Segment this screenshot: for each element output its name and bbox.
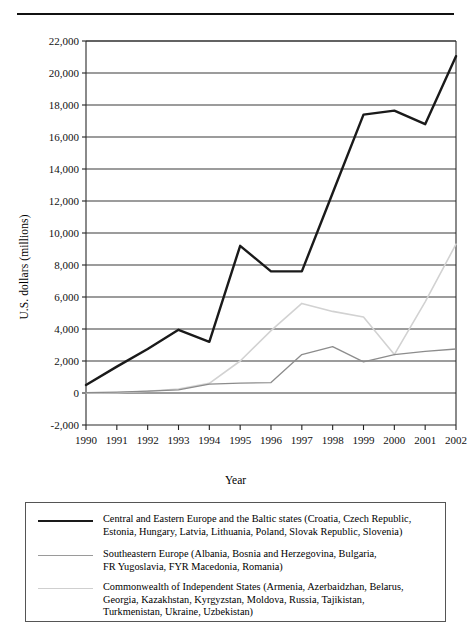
legend-label-cis: Commonwealth of Independent States (Arme… — [103, 581, 437, 619]
y-tick-label: 18,000 — [49, 99, 80, 111]
y-tick-label: 4,000 — [54, 323, 79, 335]
figure-page: -2,00002,0004,0006,0008,00010,00012,0001… — [0, 0, 471, 642]
x-tick-label: 2002 — [445, 434, 467, 446]
y-tick-label: 20,000 — [49, 67, 80, 79]
y-tick-label: 22,000 — [49, 35, 80, 47]
x-tick-label: 2000 — [383, 434, 406, 446]
y-tick-label: 16,000 — [49, 131, 80, 143]
y-tick-label: 8,000 — [54, 259, 79, 271]
top-horizontal-rule — [17, 13, 454, 15]
chart-plot-svg: -2,00002,0004,0006,0008,00010,00012,0001… — [0, 22, 471, 472]
x-tick-label: 1993 — [168, 434, 191, 446]
y-tick-label: 2,000 — [54, 355, 79, 367]
y-tick-label: 0 — [74, 387, 80, 399]
legend-entry-see: Southeastern Europe (Albania, Bosnia and… — [26, 548, 445, 573]
y-axis-title-wrapper: U.S. dollars (millions) — [14, 197, 34, 337]
y-tick-label: -2,000 — [51, 419, 80, 431]
x-tick-label: 1999 — [353, 434, 376, 446]
x-tick-label: 1997 — [291, 434, 314, 446]
y-axis-title: U.S. dollars (millions) — [18, 214, 30, 319]
x-axis-title: Year — [0, 474, 471, 486]
x-tick-label: 2001 — [414, 434, 436, 446]
x-tick-label: 1991 — [106, 434, 128, 446]
x-tick-label: 1994 — [198, 434, 221, 446]
line-chart: -2,00002,0004,0006,0008,00010,00012,0001… — [0, 22, 471, 482]
x-tick-label: 1998 — [322, 434, 345, 446]
y-tick-label: 10,000 — [49, 227, 80, 239]
y-tick-label: 6,000 — [54, 291, 79, 303]
y-tick-label: 12,000 — [49, 195, 80, 207]
y-tick-label: 14,000 — [49, 163, 80, 175]
x-tick-label: 1995 — [229, 434, 252, 446]
legend: Central and Eastern Europe and the Balti… — [25, 502, 446, 622]
x-tick-label: 1990 — [75, 434, 98, 446]
legend-entry-cee: Central and Eastern Europe and the Balti… — [26, 513, 445, 538]
x-tick-label: 1992 — [137, 434, 159, 446]
legend-label-see: Southeastern Europe (Albania, Bosnia and… — [103, 548, 437, 573]
legend-line-lightgray — [38, 588, 93, 589]
legend-line-gray — [38, 555, 93, 556]
legend-entry-cis: Commonwealth of Independent States (Arme… — [26, 581, 445, 619]
legend-line-black — [38, 520, 93, 522]
legend-label-cee: Central and Eastern Europe and the Balti… — [103, 513, 437, 538]
x-tick-label: 1996 — [260, 434, 283, 446]
series-line — [86, 244, 456, 393]
